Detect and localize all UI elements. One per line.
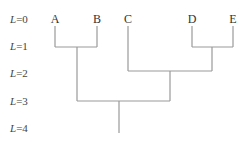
- level-label-1: L=1: [9, 40, 28, 52]
- level-labels: L=0 L=1 L=2 L=3 L=4: [9, 13, 28, 134]
- level-label-2: L=2: [9, 67, 28, 79]
- leaf-d: D: [188, 12, 197, 26]
- leaf-e: E: [229, 12, 236, 26]
- merge-de: [192, 26, 233, 71]
- leaf-b: B: [93, 12, 101, 26]
- merge-root: [77, 101, 170, 133]
- merge-cde: [128, 26, 212, 101]
- level-label-3: L=3: [9, 95, 28, 107]
- merge-ab: [55, 26, 97, 101]
- leaf-labels: A B C D E: [51, 12, 237, 26]
- dendrogram: L=0 L=1 L=2 L=3 L=4 A B C D E: [0, 0, 248, 142]
- leaf-a: A: [51, 12, 60, 26]
- level-label-4: L=4: [9, 122, 28, 134]
- leaf-c: C: [124, 12, 132, 26]
- level-label-0: L=0: [9, 13, 28, 25]
